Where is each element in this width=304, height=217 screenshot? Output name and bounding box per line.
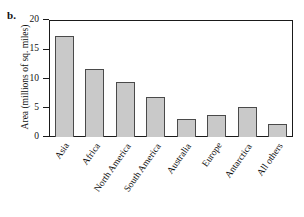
y-axis-tick-label: 10 <box>13 74 39 84</box>
x-axis-label: Africa <box>80 141 102 167</box>
x-axis-label: Asia <box>53 141 71 161</box>
y-axis-tick-label: 0 <box>13 132 39 142</box>
y-axis-tick-label: 20 <box>13 15 39 25</box>
x-axis-label: Antarctica <box>223 141 254 179</box>
x-axis-label: All others <box>255 141 285 178</box>
y-axis-tick-label: 5 <box>13 103 39 113</box>
y-axis-tick-label: 15 <box>13 44 39 54</box>
x-axis-label: Europe <box>200 141 224 169</box>
plot-area <box>49 20 293 137</box>
bar-chart-figure: b. Area (millions of sq. miles) 05101520… <box>0 0 304 217</box>
x-axis-label: Australia <box>165 141 193 175</box>
